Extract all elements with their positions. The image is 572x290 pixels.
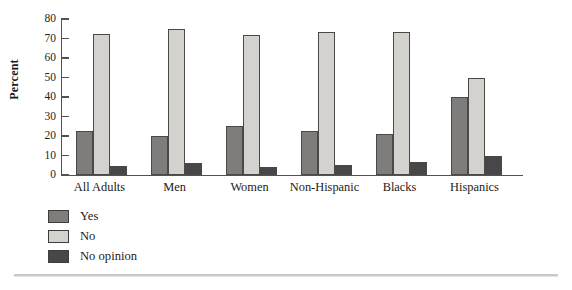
bar-no-opinion	[335, 165, 352, 175]
y-axis-tick-label: 20	[26, 130, 56, 140]
y-axis-tick-label: 80	[26, 13, 56, 23]
bar-no-opinion	[410, 162, 427, 175]
bar-no	[468, 78, 485, 176]
legend-item-no: No	[48, 227, 137, 245]
legend-label-no-opinion: No opinion	[80, 249, 137, 264]
bar-group	[76, 19, 127, 175]
y-axis-tick-label: 70	[26, 33, 56, 43]
x-axis-label: Non-Hispanic	[287, 180, 362, 195]
bar-yes	[151, 136, 168, 175]
legend-item-yes: Yes	[48, 207, 137, 225]
legend-swatch-yes	[48, 210, 69, 223]
legend-item-no-opinion: No opinion	[48, 247, 137, 265]
y-axis-tick-label: 10	[26, 150, 56, 160]
bar-yes	[301, 131, 318, 175]
legend-swatch-no	[48, 230, 69, 243]
y-axis-tick-label: 40	[26, 91, 56, 101]
bar-yes	[76, 131, 93, 175]
legend-swatch-no-opinion	[48, 250, 69, 263]
plot-area	[62, 19, 512, 175]
y-axis-tick-label: 30	[26, 111, 56, 121]
bar-no	[243, 35, 260, 175]
bar-yes	[451, 97, 468, 175]
x-axis-label: All Adults	[62, 180, 137, 195]
bar-no-opinion	[260, 167, 277, 175]
footer-rule-shadow	[14, 276, 558, 277]
bar-yes	[226, 126, 243, 175]
x-axis-label: Men	[137, 180, 212, 195]
bar-group	[451, 19, 502, 175]
bar-no	[168, 29, 185, 175]
bar-chart-figure: Percent 01020304050607080 All AdultsMenW…	[0, 0, 572, 290]
x-axis-line	[61, 175, 523, 176]
x-axis-label: Women	[212, 180, 287, 195]
legend-label-no: No	[80, 229, 95, 244]
bar-no	[318, 32, 335, 175]
y-axis-tick-label: 50	[26, 72, 56, 82]
bar-yes	[376, 134, 393, 175]
x-axis-label: Blacks	[362, 180, 437, 195]
y-axis-tick-label: 0	[26, 169, 56, 179]
legend-label-yes: Yes	[80, 209, 98, 224]
y-axis-title: Percent	[7, 59, 22, 100]
bar-no-opinion	[485, 156, 502, 176]
bar-no	[93, 34, 110, 175]
bar-group	[301, 19, 352, 175]
bar-no	[393, 32, 410, 175]
bar-group	[151, 19, 202, 175]
y-axis-tick-label: 60	[26, 52, 56, 62]
x-axis-label: Hispanics	[437, 180, 512, 195]
bar-no-opinion	[185, 163, 202, 175]
chart-legend: Yes No No opinion	[48, 207, 137, 267]
bar-no-opinion	[110, 166, 127, 175]
bar-group	[226, 19, 277, 175]
bar-group	[376, 19, 427, 175]
